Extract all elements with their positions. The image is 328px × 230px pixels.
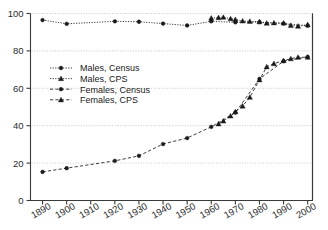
- legend-label: Females, CPS: [80, 95, 138, 105]
- y-tick-label: 60: [13, 83, 24, 94]
- legend-marker: [59, 66, 63, 70]
- legend-label: Males, CPS: [80, 74, 128, 84]
- data-point: [65, 166, 69, 170]
- data-point: [209, 125, 213, 129]
- y-tick-label: 40: [13, 120, 24, 131]
- y-axis: 020406080100: [8, 8, 31, 206]
- x-tick-label: 1910: [77, 200, 101, 220]
- x-tick-label: 1990: [270, 200, 294, 220]
- legend-label: Males, Census: [80, 63, 140, 73]
- data-point: [41, 18, 45, 22]
- x-tick-label: 1890: [29, 200, 53, 220]
- data-point: [113, 19, 117, 23]
- data-point: [65, 22, 69, 26]
- data-point: [233, 17, 238, 22]
- legend-label: Females, Census: [80, 85, 151, 95]
- data-point: [271, 61, 276, 66]
- x-tick-label: 1930: [125, 200, 149, 220]
- x-tick-label: 1940: [149, 200, 173, 220]
- x-tick-label: 1950: [174, 200, 198, 220]
- series-line: [219, 57, 308, 124]
- series-males-census: [41, 18, 310, 27]
- x-tick-label: 1920: [101, 200, 125, 220]
- gridlines: [32, 14, 312, 164]
- data-point: [137, 154, 141, 158]
- line-chart: 0204060801001890190019101920193019401950…: [0, 0, 328, 230]
- data-point: [209, 16, 214, 21]
- data-point: [305, 22, 310, 27]
- data-point: [228, 16, 233, 21]
- data-point: [185, 136, 189, 140]
- data-point: [161, 142, 165, 146]
- data-point: [185, 24, 189, 28]
- x-tick-label: 1960: [198, 200, 222, 220]
- x-tick-label: 1900: [53, 200, 77, 220]
- data-point: [264, 64, 269, 69]
- data-point: [240, 18, 245, 23]
- y-tick-label: 100: [8, 8, 24, 19]
- x-tick-label: 2000: [294, 200, 318, 220]
- legend-marker: [59, 87, 63, 91]
- data-point: [161, 22, 165, 26]
- x-tick-label: 1970: [222, 200, 246, 220]
- axis-frame: [31, 14, 313, 201]
- legend: Males, CensusMales, CPSFemales, CensusFe…: [50, 63, 151, 105]
- data-point: [247, 95, 252, 100]
- data-point: [221, 15, 226, 20]
- data-point: [137, 20, 141, 24]
- data-point: [113, 159, 117, 163]
- legend-marker: [58, 76, 63, 81]
- y-tick-label: 20: [13, 158, 24, 169]
- y-tick-label: 0: [18, 195, 23, 206]
- chart-container: 0204060801001890190019101920193019401950…: [0, 0, 328, 230]
- series-females-cps: [216, 55, 310, 126]
- x-axis: 1890190019101920193019401950196019701980…: [29, 200, 318, 220]
- x-tick-label: 1980: [246, 200, 270, 220]
- plot-frame: [31, 14, 313, 201]
- y-tick-label: 80: [13, 45, 24, 56]
- data-point: [41, 170, 45, 174]
